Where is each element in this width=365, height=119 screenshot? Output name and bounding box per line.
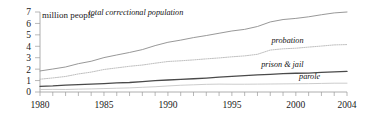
y-tick-label: 4 bbox=[26, 42, 31, 52]
x-tick-label: 1995 bbox=[222, 100, 241, 110]
y-tick-label: 0 bbox=[26, 87, 31, 97]
y-axis-caption: million people bbox=[42, 10, 94, 20]
y-tick-label: 6 bbox=[26, 19, 31, 29]
series-label-probation: probation bbox=[271, 36, 304, 45]
correctional-population-chart: 01234567 198019851990199520002004 total … bbox=[0, 0, 365, 119]
x-axis: 198019851990199520002004 bbox=[31, 92, 357, 110]
y-axis: 01234567 bbox=[26, 7, 40, 97]
chart-plot-area: 01234567 198019851990199520002004 total … bbox=[0, 0, 365, 119]
x-tick-label: 1990 bbox=[158, 100, 177, 110]
series-labels: total correctional populationprobationpr… bbox=[89, 8, 321, 82]
y-tick-label: 1 bbox=[26, 76, 31, 86]
y-tick-label: 2 bbox=[26, 65, 31, 75]
x-tick-label: 2000 bbox=[286, 100, 305, 110]
x-tick-label: 1980 bbox=[31, 100, 50, 110]
y-tick-label: 5 bbox=[26, 30, 31, 40]
series-label-prison-jail: prison & jail bbox=[260, 60, 304, 69]
x-tick-label: 2004 bbox=[338, 100, 357, 110]
y-tick-label: 7 bbox=[26, 7, 31, 17]
series-label-parole: parole bbox=[298, 72, 320, 81]
series-label-total-correctional-population: total correctional population bbox=[89, 8, 184, 17]
x-tick-label: 1985 bbox=[94, 100, 113, 110]
y-tick-label: 3 bbox=[26, 53, 31, 63]
